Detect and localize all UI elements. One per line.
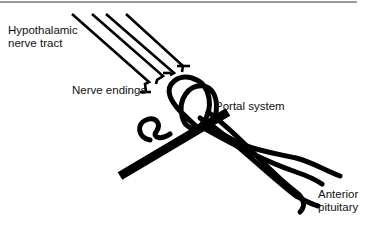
label-line: nerve tract	[8, 37, 78, 50]
label-line: Anterior	[318, 188, 358, 201]
label-line: pituitary	[318, 201, 358, 214]
label-line: Hypothalamic	[8, 24, 78, 37]
label-hypothalamic-nerve-tract: Hypothalamic nerve tract	[8, 24, 78, 50]
label-portal-system: Portal system	[215, 100, 285, 113]
label-anterior-pituitary: Anterior pituitary	[318, 188, 358, 214]
portal-system	[120, 77, 340, 212]
label-nerve-endings: Nerve endings	[72, 84, 146, 97]
